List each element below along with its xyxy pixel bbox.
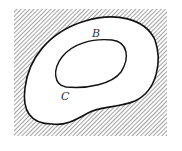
label-c: C (61, 90, 70, 103)
label-b: B (91, 27, 100, 40)
region-diagram: B C (0, 0, 182, 151)
